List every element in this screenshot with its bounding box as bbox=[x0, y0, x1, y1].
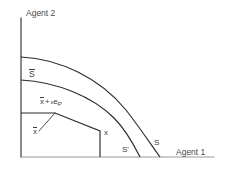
x-bar-plus-epsilon-ep-label: x+εeP bbox=[40, 98, 62, 107]
x-axis-label: Agent 1 bbox=[176, 148, 205, 157]
x-bar-leader-line bbox=[39, 113, 55, 131]
y-axis-label: Agent 2 bbox=[26, 9, 55, 18]
plus-symbol: + bbox=[45, 97, 50, 106]
x-bar-label: x bbox=[33, 128, 37, 136]
s-bar-frontier-curve bbox=[21, 57, 160, 157]
s-bar-label: S bbox=[29, 70, 35, 79]
x-point-label: x bbox=[104, 129, 108, 137]
s-prime-label: S' bbox=[122, 146, 129, 154]
e-subscript-p: P bbox=[58, 100, 62, 107]
x-bar-symbol: x bbox=[40, 98, 44, 106]
x-bar-text: x bbox=[33, 128, 37, 136]
s-bar-text: S bbox=[29, 70, 35, 79]
economics-diagram-figure: Agent 2 Agent 1 S x+εeP x x S' S bbox=[0, 0, 225, 176]
s-label: S bbox=[154, 139, 159, 147]
